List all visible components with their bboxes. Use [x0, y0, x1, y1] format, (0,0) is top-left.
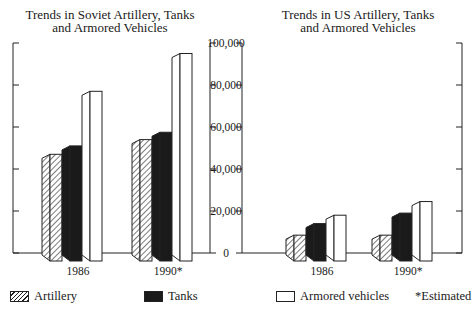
- category-label: 1986: [311, 265, 334, 277]
- legend-artillery: Artillery: [10, 289, 77, 304]
- artillery-swatch: [10, 291, 29, 302]
- bar-armored-vehicles: [82, 91, 102, 261]
- bar-armored-vehicles: [172, 54, 192, 262]
- y-tick-label: 80,000: [210, 79, 242, 92]
- bar-artillery: [42, 154, 62, 261]
- armored-swatch: [276, 291, 295, 302]
- x-axis-category-labels: 19861990*19861990*: [67, 265, 423, 277]
- legend-tanks: Tanks: [144, 289, 198, 304]
- bar-tanks: [392, 213, 412, 261]
- y-axis-tick-labels: 100,00080,00060,00040,00020,0000: [207, 37, 245, 259]
- category-label: 1986: [67, 265, 90, 277]
- bar-armored-vehicles: [326, 215, 346, 261]
- y-tick-label: 40,000: [210, 163, 242, 176]
- legend-armored: Armored vehicles: [276, 289, 389, 304]
- estimated-note-text: *Estimated: [415, 289, 471, 304]
- category-label: 1990*: [394, 265, 423, 277]
- bar-tanks: [152, 132, 172, 261]
- bar-tanks: [306, 224, 326, 261]
- tanks-swatch: [144, 291, 163, 302]
- legend-tanks-label: Tanks: [168, 289, 198, 304]
- chart-canvas: 100,00080,00060,00040,00020,0000 1986199…: [0, 0, 475, 310]
- y-tick-label: 100,000: [207, 37, 245, 50]
- bar-artillery: [372, 235, 392, 261]
- category-label: 1990*: [154, 265, 183, 277]
- y-tick-label: 20,000: [210, 205, 242, 218]
- y-tick-label: 60,000: [210, 121, 242, 134]
- bar-tanks: [62, 146, 82, 261]
- legend-artillery-label: Artillery: [34, 289, 77, 304]
- legend-armored-label: Armored vehicles: [300, 289, 389, 304]
- bar-artillery: [286, 235, 306, 261]
- bar-armored-vehicles: [412, 202, 432, 261]
- bar-artillery: [132, 140, 152, 261]
- estimated-note: *Estimated: [415, 289, 471, 304]
- y-tick-label: 0: [223, 247, 229, 259]
